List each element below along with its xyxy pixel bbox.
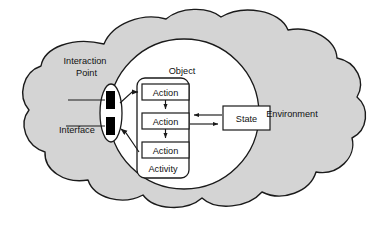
object-label: Object: [169, 66, 196, 76]
action-label-3: Action: [153, 146, 179, 156]
state-label: State: [236, 114, 257, 124]
environment-label: Environment: [266, 109, 318, 119]
activity-label: Activity: [148, 164, 178, 174]
interaction-point-upper[interactable]: [106, 91, 115, 109]
diagram-root: Interaction Point Interface Object Actio…: [0, 0, 372, 225]
interaction-point-lower[interactable]: [106, 117, 115, 135]
action-label-2: Action: [153, 117, 179, 127]
interaction-point-label-line1: Interaction: [64, 56, 107, 66]
interface-ellipse-group: [100, 84, 122, 142]
interface-label: Interface: [59, 125, 95, 135]
interaction-point-label-line2: Point: [76, 68, 97, 78]
diagram-canvas: Interaction Point Interface Object Actio…: [0, 0, 372, 225]
action-label-1: Action: [153, 88, 179, 98]
